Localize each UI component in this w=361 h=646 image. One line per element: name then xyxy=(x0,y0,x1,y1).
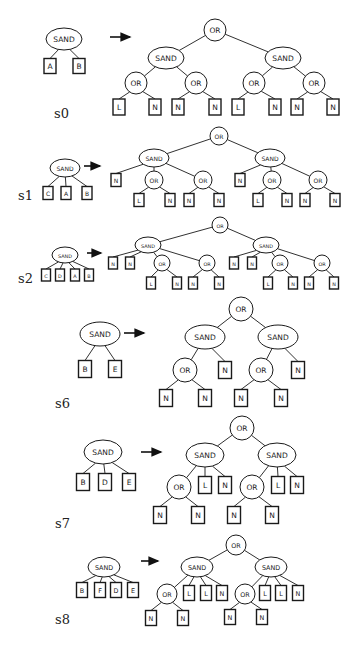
tree-edge xyxy=(177,67,188,76)
leaf-node-n: N xyxy=(109,257,118,269)
node-label: OR xyxy=(203,261,211,267)
tree-edge xyxy=(187,466,197,478)
tree-edge xyxy=(173,602,183,610)
sand-node: SAND xyxy=(255,149,285,167)
node-label: N xyxy=(212,103,218,112)
node-label: E xyxy=(127,478,132,487)
node-label: N xyxy=(333,197,338,204)
leaf-node-n: N xyxy=(257,610,268,625)
leaf-node-n: N xyxy=(219,477,232,494)
node-label: L xyxy=(150,281,153,287)
leaf-node-n: N xyxy=(282,194,292,207)
node-label: N xyxy=(195,511,201,520)
node-label: B xyxy=(80,587,84,595)
leaf-node-n: N xyxy=(330,277,339,289)
tree-edge xyxy=(227,228,255,240)
tree-edge xyxy=(109,577,116,583)
tree-edge xyxy=(284,270,293,277)
node-label: N xyxy=(295,366,301,375)
tree-edge xyxy=(160,497,172,507)
node-label: OR xyxy=(162,591,172,599)
node-label: N xyxy=(111,261,115,267)
node-label: N xyxy=(191,281,195,287)
leaf-node-n: N xyxy=(178,611,189,626)
leaf-node-e: E xyxy=(128,583,139,598)
leaf-node-d: D xyxy=(111,583,122,598)
leaf-node-n: N xyxy=(215,277,224,289)
node-label: OR xyxy=(179,366,190,375)
tree-edge xyxy=(116,164,143,173)
node-label: N xyxy=(238,394,244,403)
node-label: N xyxy=(220,590,225,598)
tree-edge xyxy=(326,270,334,277)
sand-node: SAND xyxy=(88,557,120,577)
node-label: SAND xyxy=(89,330,111,339)
leaf-node-n: N xyxy=(149,99,161,115)
node-label: SAND xyxy=(188,564,206,572)
node-label: N xyxy=(228,614,233,622)
tree-edge xyxy=(234,497,246,506)
node-label: N xyxy=(291,281,295,287)
tree-edge xyxy=(203,92,215,99)
leaf-node-l: L xyxy=(134,194,144,207)
node-label: N xyxy=(217,197,222,204)
node-label: N xyxy=(168,197,173,204)
step-label: s8 xyxy=(55,612,70,627)
tree-edge xyxy=(192,380,205,390)
node-label: OR xyxy=(231,542,241,550)
tree-edge xyxy=(130,252,141,257)
sand-node: SAND xyxy=(139,149,169,167)
tree-edge xyxy=(189,187,198,193)
leaf-node-n: N xyxy=(199,390,212,407)
or-node: OR xyxy=(167,475,191,499)
node-label: OR xyxy=(209,26,220,35)
sand-node: SAND xyxy=(253,237,279,253)
tree-edge xyxy=(277,467,278,477)
node-label: N xyxy=(175,103,181,112)
node-label: N xyxy=(222,366,228,375)
node-label: N xyxy=(307,281,311,287)
leaf-node-l: L xyxy=(199,477,212,494)
leaf-node-n: N xyxy=(300,194,310,207)
tree-edge xyxy=(113,250,138,257)
node-label: N xyxy=(163,394,169,403)
leaf-node-n: N xyxy=(291,477,304,494)
tree-edge xyxy=(50,49,59,58)
node-label: N xyxy=(250,261,254,267)
leaf-node-d: D xyxy=(99,474,112,491)
leaf-node-b: B xyxy=(77,583,88,598)
tree-edge xyxy=(217,435,232,446)
or-node: OR xyxy=(314,255,330,271)
node-label: N xyxy=(232,261,236,267)
step-label: s6 xyxy=(55,396,70,411)
node-label: N xyxy=(217,281,221,287)
tree-edge xyxy=(252,252,260,257)
tree-edge xyxy=(144,67,155,76)
tree-edge xyxy=(309,270,318,277)
node-label: SAND xyxy=(56,165,74,172)
tree-edge xyxy=(193,270,202,277)
leaf-node-a: A xyxy=(44,59,56,74)
node-label: SAND xyxy=(261,155,279,162)
tree-edge xyxy=(167,139,210,154)
node-label: N xyxy=(294,481,300,490)
sand-node: SAND xyxy=(46,28,82,50)
tree-edge xyxy=(275,577,281,586)
tree-edge xyxy=(251,316,266,327)
tree-edge xyxy=(70,49,79,58)
node-label: L xyxy=(204,590,208,598)
tree-edge xyxy=(268,270,276,277)
tree-edge xyxy=(238,92,248,99)
or-node: OR xyxy=(243,72,265,94)
leaf-node-l: L xyxy=(201,586,212,601)
leaf-node-n: N xyxy=(228,507,241,524)
tree-edge xyxy=(189,577,194,586)
tree-edge xyxy=(200,577,206,586)
sand-node: SAND xyxy=(258,325,298,349)
tree-edge xyxy=(259,466,268,478)
leaf-node-n: N xyxy=(266,507,279,524)
tree-edge xyxy=(105,346,115,361)
leaf-node-l: L xyxy=(264,277,273,289)
sand-node: SAND xyxy=(265,47,301,69)
tree-edge xyxy=(151,602,161,610)
